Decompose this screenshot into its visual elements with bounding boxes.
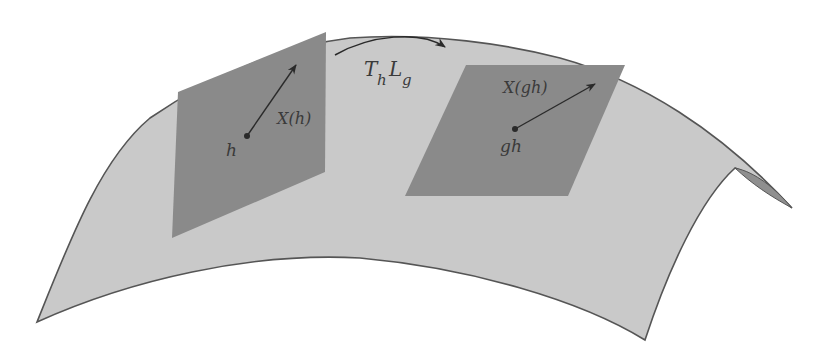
vector-label-left: X(h) (275, 109, 311, 128)
map-label-sub-g: g (402, 71, 412, 89)
point-label-h: h (226, 140, 237, 160)
lie-group-tangent-diagram: h X(h) gh X(gh) T h L g (0, 0, 821, 349)
surface-underside (735, 168, 792, 208)
map-label-sub-h: h (377, 71, 387, 89)
point-gh-dot (512, 126, 518, 132)
map-label-L: L (388, 57, 402, 81)
point-label-gh: gh (500, 136, 522, 156)
point-h-dot (244, 133, 250, 139)
vector-label-right: X(gh) (501, 78, 547, 97)
